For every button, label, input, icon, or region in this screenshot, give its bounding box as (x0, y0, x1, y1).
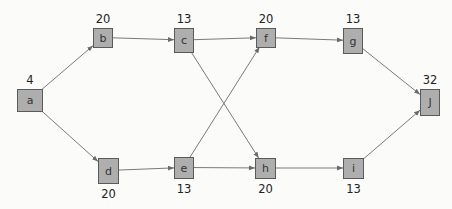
nodes-layer: a4b20c13d20e13f20g13h20i13J32 (18, 12, 440, 201)
node-label-i: i (352, 162, 355, 175)
node-value-a: 4 (26, 73, 33, 87)
node-c: c13 (175, 12, 194, 53)
node-value-c: 13 (177, 12, 192, 26)
node-h: h20 (256, 159, 276, 197)
network-diagram: a4b20c13d20e13f20g13h20i13J32 (0, 0, 452, 209)
edge-a-to-b (42, 46, 93, 90)
edge-b-to-c (112, 38, 174, 40)
node-label-a: a (27, 94, 34, 107)
node-value-g: 13 (346, 12, 361, 26)
edge-e-to-f (190, 47, 259, 157)
node-d: d20 (99, 159, 119, 202)
node-label-g: g (350, 35, 357, 48)
node-value-b: 20 (96, 12, 111, 26)
node-label-e: e (181, 162, 188, 175)
edge-c-to-h (191, 52, 258, 158)
node-value-d: 20 (101, 187, 116, 201)
node-e: e13 (175, 158, 194, 197)
node-value-h: 20 (258, 182, 273, 196)
node-b: b20 (94, 12, 113, 48)
node-g: g13 (344, 12, 363, 54)
edge-f-to-g (275, 38, 343, 40)
node-label-c: c (181, 34, 187, 47)
node-label-h: h (262, 162, 269, 175)
edge-a-to-d (42, 111, 98, 162)
edge-c-to-f (193, 38, 256, 40)
node-i: i13 (344, 159, 364, 197)
edges-layer (42, 38, 420, 170)
node-f: f20 (257, 12, 276, 48)
node-label-b: b (100, 32, 107, 45)
node-label-d: d (105, 165, 112, 178)
node-value-f: 20 (259, 12, 274, 26)
edge-d-to-e (118, 168, 174, 170)
node-value-e: 13 (177, 182, 192, 196)
edge-i-to-j (363, 110, 420, 159)
node-value-j: 32 (423, 73, 438, 87)
node-a: a4 (18, 73, 43, 112)
node-j: J32 (421, 73, 440, 116)
node-value-i: 13 (346, 182, 361, 196)
edge-g-to-j (362, 48, 420, 94)
node-label-j: J (427, 96, 431, 109)
